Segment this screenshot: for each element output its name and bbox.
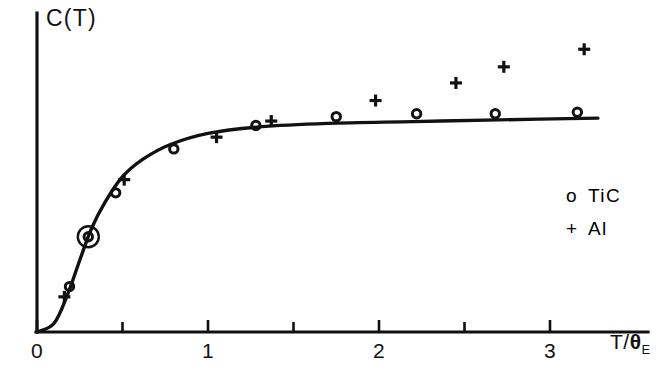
legend-item-tic: oTiC	[566, 185, 621, 207]
x-axis-label-main: T/	[610, 330, 630, 353]
data-point-tic	[491, 110, 499, 118]
legend-label-al: Al	[588, 218, 608, 239]
series-al-markers	[58, 43, 590, 303]
theta-symbol: θ	[630, 330, 642, 353]
data-point-tic	[170, 145, 178, 153]
x-axis-tick-label: 0	[31, 340, 43, 361]
x-axis-label: T/θE	[610, 331, 650, 356]
data-point-al	[370, 95, 382, 107]
series-tic-markers	[65, 108, 581, 291]
legend-circle-icon: o	[566, 185, 588, 207]
einstein-model-curve	[37, 118, 598, 332]
data-point-tic	[412, 110, 420, 118]
legend-label-tic: TiC	[588, 185, 621, 206]
x-axis-tick-label: 2	[373, 340, 385, 361]
data-point-tic	[111, 189, 119, 197]
y-axis-label: C(T)	[46, 7, 97, 30]
x-axis-label-subscript: E	[642, 342, 651, 357]
data-point-tic	[573, 108, 581, 116]
data-point-al	[578, 43, 590, 55]
x-axis-tick-label: 1	[202, 340, 214, 361]
legend-item-al: +Al	[566, 218, 608, 240]
x-axis-tick-label: 3	[544, 340, 556, 361]
legend-plus-icon: +	[566, 218, 588, 240]
data-point-tic	[252, 121, 260, 129]
chart-figure: C(T) T/θE 0123 oTiC +Al	[0, 0, 669, 387]
data-point-al	[498, 61, 510, 73]
data-point-al	[450, 77, 462, 89]
data-point-al	[118, 174, 130, 186]
x-axis-ticks	[37, 320, 550, 332]
data-point-tic	[332, 112, 340, 120]
